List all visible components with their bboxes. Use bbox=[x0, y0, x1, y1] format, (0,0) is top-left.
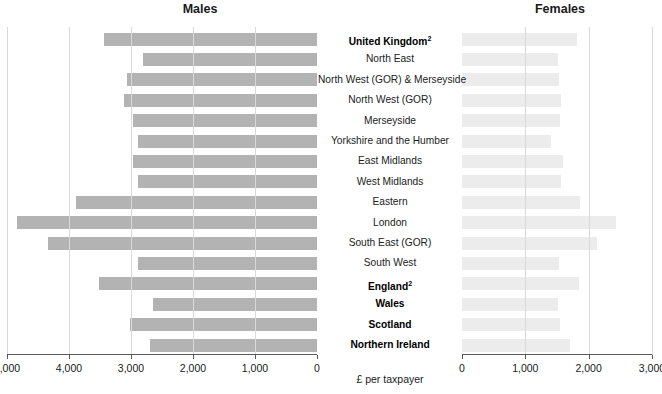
bar-male bbox=[130, 318, 317, 331]
axis-tick bbox=[652, 355, 653, 359]
axis-tick bbox=[589, 355, 590, 359]
bar-row bbox=[7, 233, 317, 253]
bar-male bbox=[104, 33, 317, 46]
category-label: Northern Ireland bbox=[318, 335, 462, 355]
bar-male bbox=[76, 196, 317, 209]
bar-row bbox=[462, 70, 652, 90]
bar-female bbox=[462, 53, 558, 66]
axis-tick bbox=[255, 355, 256, 359]
gridline bbox=[589, 27, 590, 355]
bar-male bbox=[153, 298, 317, 311]
category-label-column: United Kingdom2North EastNorth West (GOR… bbox=[318, 27, 462, 355]
category-label: North West (GOR) & Merseyside bbox=[318, 70, 462, 90]
bars-layer-females bbox=[462, 27, 652, 355]
bar-male bbox=[124, 94, 317, 107]
bar-row bbox=[462, 192, 652, 212]
category-label: South East (GOR) bbox=[318, 233, 462, 253]
axis-tick-label: 1,000 bbox=[495, 362, 555, 374]
category-label: Yorkshire and the Humber bbox=[318, 131, 462, 151]
bar-male bbox=[133, 155, 317, 168]
axis-tick bbox=[69, 355, 70, 359]
category-label: Scotland bbox=[318, 315, 462, 335]
bar-female bbox=[462, 196, 580, 209]
bar-female bbox=[462, 33, 577, 46]
axis-tick bbox=[462, 355, 463, 359]
bar-row bbox=[7, 29, 317, 49]
bar-row bbox=[7, 335, 317, 355]
plot-area-males: 5,0004,0003,0002,0001,0000 bbox=[7, 27, 317, 374]
category-label: Merseyside bbox=[318, 111, 462, 131]
bar-female bbox=[462, 175, 561, 188]
axis-tick bbox=[193, 355, 194, 359]
gridline bbox=[652, 27, 653, 355]
bar-row bbox=[7, 111, 317, 131]
gridline bbox=[525, 27, 526, 355]
bar-row bbox=[7, 172, 317, 192]
bar-row bbox=[462, 274, 652, 294]
bar-row bbox=[462, 90, 652, 110]
bar-row bbox=[462, 151, 652, 171]
bar-row bbox=[462, 111, 652, 131]
bar-row bbox=[7, 151, 317, 171]
bar-female bbox=[462, 216, 616, 229]
bar-row bbox=[7, 274, 317, 294]
bar-female bbox=[462, 135, 551, 148]
axis-tick bbox=[7, 355, 8, 359]
bar-female bbox=[462, 298, 558, 311]
bar-row bbox=[462, 213, 652, 233]
gridline bbox=[7, 27, 8, 355]
bar-row bbox=[7, 294, 317, 314]
plot-area-females: 01,0002,0003,000 bbox=[462, 27, 652, 374]
bar-male bbox=[143, 53, 317, 66]
panel-title-females: Females bbox=[500, 2, 620, 16]
bar-row bbox=[462, 315, 652, 335]
bar-female bbox=[462, 257, 559, 270]
gridline bbox=[131, 27, 132, 355]
bar-row bbox=[462, 294, 652, 314]
category-label: North West (GOR) bbox=[318, 90, 462, 110]
axis-tick bbox=[525, 355, 526, 359]
bar-row bbox=[7, 315, 317, 335]
category-label: Eastern bbox=[318, 192, 462, 212]
bar-female bbox=[462, 237, 597, 250]
bar-row bbox=[7, 70, 317, 90]
category-label: South West bbox=[318, 253, 462, 273]
bar-row bbox=[462, 49, 652, 69]
category-label: United Kingdom2 bbox=[318, 29, 462, 49]
category-label: West Midlands bbox=[318, 172, 462, 192]
axis-tick-label: 3,000 bbox=[101, 362, 161, 374]
axis-tick-label: 3,000 bbox=[622, 362, 662, 374]
axis-tick-label: 4,000 bbox=[39, 362, 99, 374]
chart-root: Males Females 5,0004,0003,0002,0001,0000… bbox=[0, 0, 662, 394]
axis-line-females bbox=[462, 354, 652, 355]
bar-male bbox=[138, 175, 317, 188]
bar-row bbox=[7, 49, 317, 69]
axis-line-males bbox=[7, 354, 317, 355]
axis-tick bbox=[317, 355, 318, 359]
bar-male bbox=[133, 114, 317, 127]
bar-male bbox=[48, 237, 317, 250]
axis-tick-label: 2,000 bbox=[559, 362, 619, 374]
bar-female bbox=[462, 318, 560, 331]
axis-caption: £ per taxpayer bbox=[318, 373, 462, 385]
gridline bbox=[255, 27, 256, 355]
bar-row bbox=[7, 90, 317, 110]
panel-title-males: Males bbox=[140, 2, 260, 16]
bar-row bbox=[462, 172, 652, 192]
category-label: North East bbox=[318, 49, 462, 69]
bar-row bbox=[462, 29, 652, 49]
bar-row bbox=[7, 253, 317, 273]
bar-female bbox=[462, 277, 579, 290]
bar-female bbox=[462, 155, 563, 168]
gridline bbox=[69, 27, 70, 355]
bar-male bbox=[138, 135, 317, 148]
bar-male bbox=[17, 216, 317, 229]
bar-row bbox=[7, 213, 317, 233]
bar-female bbox=[462, 94, 561, 107]
axis-tick-label: 1,000 bbox=[225, 362, 285, 374]
category-label: London bbox=[318, 213, 462, 233]
bar-male bbox=[138, 257, 317, 270]
gridline bbox=[193, 27, 194, 355]
category-label: England2 bbox=[318, 274, 462, 294]
category-label: East Midlands bbox=[318, 151, 462, 171]
